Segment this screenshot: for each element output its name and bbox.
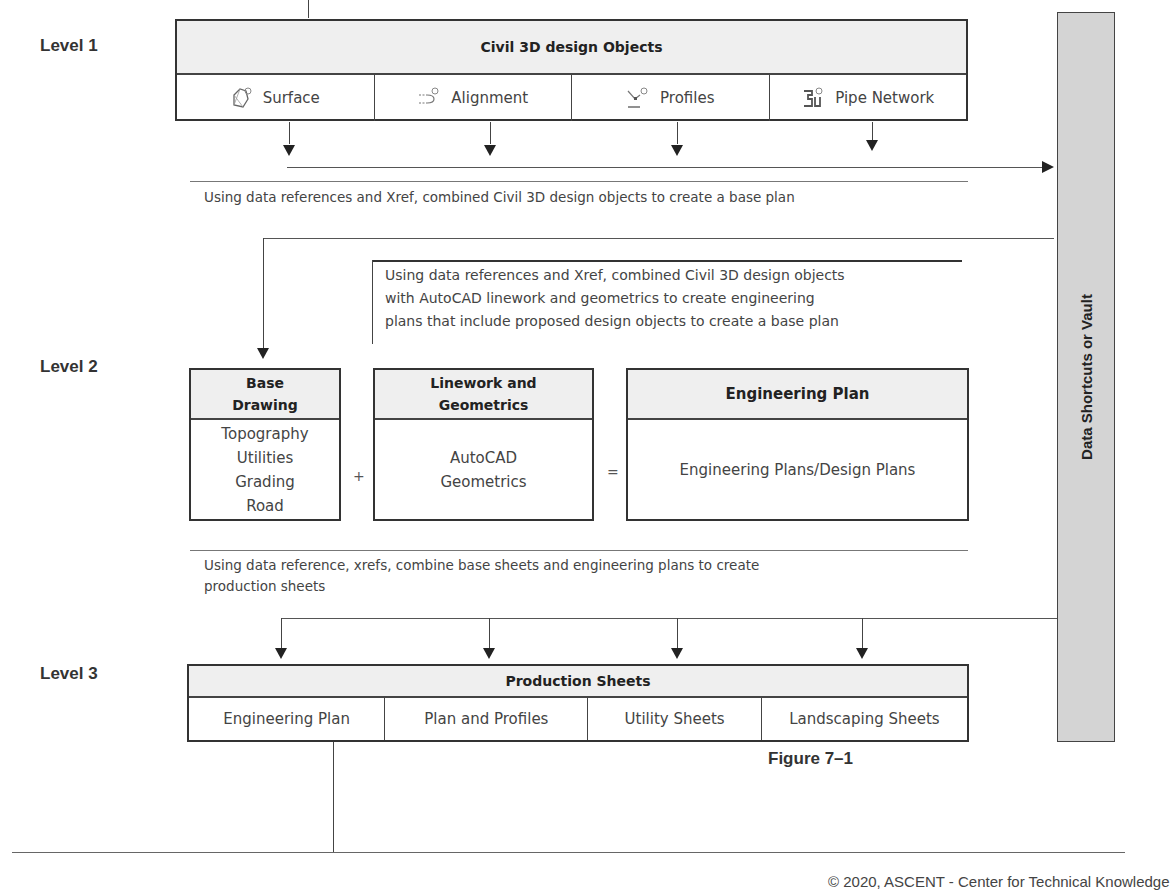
- linework-body: AutoCAD Geometrics: [375, 420, 592, 519]
- level-1-label: Level 1: [40, 36, 98, 56]
- engineering-plan-title: Engineering Plan: [628, 370, 967, 420]
- pipe-network-connector: [872, 122, 873, 140]
- civil3d-objects-title: Civil 3D design Objects: [177, 21, 966, 75]
- to-base-drawing-line: [263, 238, 264, 348]
- base-drawing-title-line-1: Base: [246, 372, 284, 394]
- linework-body-line-1: AutoCAD: [450, 446, 517, 470]
- engineering-plan-box: Engineering Plan Engineering Plans/Desig…: [626, 368, 969, 521]
- equals-operator: =: [607, 464, 619, 480]
- linework-title-line-1: Linework and: [430, 372, 536, 394]
- surface-connector: [289, 122, 290, 144]
- caption-rule: [190, 550, 968, 551]
- arrow-down-icon: [484, 145, 496, 156]
- level-2-caption-line-2: production sheets: [204, 576, 759, 597]
- base-item-road: Road: [246, 494, 284, 518]
- footer-rule: [12, 852, 1125, 853]
- object-pipe-network-label: Pipe Network: [835, 89, 934, 107]
- intro-line-3: plans that include proposed design objec…: [385, 310, 845, 333]
- linework-body-line-2: Geometrics: [440, 470, 526, 494]
- level-2-caption-line-1: Using data reference, xrefs, combine bas…: [204, 555, 759, 576]
- alignment-connector: [490, 122, 491, 144]
- level-3-label: Level 3: [40, 664, 98, 684]
- object-pipe-network: Pipe Network: [769, 75, 967, 121]
- plus-operator: +: [353, 468, 365, 484]
- arrow-down-icon: [856, 648, 868, 659]
- arrow-down-icon: [257, 348, 269, 359]
- from-vault-line: [263, 238, 1054, 239]
- arrow-down-icon: [866, 140, 878, 151]
- object-surface-label: Surface: [263, 89, 320, 107]
- base-item-grading: Grading: [235, 470, 295, 494]
- alignment-icon: [417, 87, 441, 109]
- level-2-label: Level 2: [40, 357, 98, 377]
- footer-text: © 2020, ASCENT - Center for Technical Kn…: [828, 873, 1170, 890]
- level-2-intro: Using data references and Xref, combined…: [385, 264, 845, 333]
- base-item-utilities: Utilities: [237, 446, 293, 470]
- linework-box: Linework and Geometrics AutoCAD Geometri…: [373, 368, 594, 521]
- intro-line-1: Using data references and Xref, combined…: [385, 264, 845, 287]
- bottom-connector-line: [333, 742, 334, 852]
- profiles-connector: [677, 122, 678, 144]
- to-plan-profiles-sheet: [489, 618, 490, 648]
- production-sheets-title: Production Sheets: [189, 666, 967, 698]
- arrow-down-icon: [275, 648, 287, 659]
- object-alignment-label: Alignment: [451, 89, 528, 107]
- linework-title: Linework and Geometrics: [375, 370, 592, 420]
- profiles-icon: [626, 87, 650, 109]
- figure-caption: Figure 7–1: [768, 749, 853, 769]
- to-production-line: [281, 618, 1071, 619]
- to-vault-line: [287, 167, 1042, 168]
- surface-icon: [231, 87, 253, 109]
- data-shortcuts-vault: Data Shortcuts or Vault: [1057, 12, 1115, 742]
- object-profiles: Profiles: [571, 75, 769, 121]
- to-engineering-plan-sheet: [281, 618, 282, 648]
- top-connector-line: [308, 0, 309, 18]
- caption-rule: [190, 181, 968, 182]
- object-profiles-label: Profiles: [660, 89, 714, 107]
- intro-line-2: with AutoCAD linework and geometrics to …: [385, 287, 845, 310]
- production-sheets-box: Production Sheets Engineering Plan Plan …: [187, 664, 969, 742]
- arrow-right-icon: [1042, 161, 1054, 173]
- pipe-network-icon: [801, 87, 825, 109]
- sheet-utility: Utility Sheets: [587, 698, 760, 740]
- to-utility-sheet: [677, 618, 678, 648]
- intro-rule: [372, 260, 962, 262]
- sheet-engineering-plan: Engineering Plan: [189, 698, 384, 740]
- base-drawing-title-line-2: Drawing: [232, 394, 298, 416]
- base-drawing-box: Base Drawing Topography Utilities Gradin…: [189, 368, 341, 521]
- arrow-down-icon: [671, 648, 683, 659]
- arrow-down-icon: [483, 648, 495, 659]
- linework-title-line-2: Geometrics: [439, 394, 529, 416]
- arrow-down-icon: [671, 145, 683, 156]
- sheet-plan-and-profiles: Plan and Profiles: [384, 698, 587, 740]
- base-item-topography: Topography: [221, 422, 308, 446]
- object-alignment: Alignment: [374, 75, 572, 121]
- base-drawing-items: Topography Utilities Grading Road: [191, 420, 339, 519]
- sheet-landscaping: Landscaping Sheets: [761, 698, 967, 740]
- level-1-caption: Using data references and Xref, combined…: [204, 187, 795, 208]
- to-landscaping-sheet: [862, 618, 863, 648]
- level-2-caption: Using data reference, xrefs, combine bas…: [204, 555, 759, 597]
- object-surface: Surface: [177, 75, 374, 121]
- civil3d-objects-box: Civil 3D design Objects Surface Alignmen…: [175, 19, 968, 121]
- intro-bracket: [372, 260, 373, 344]
- arrow-down-icon: [283, 145, 295, 156]
- engineering-plan-body: Engineering Plans/Design Plans: [628, 420, 967, 519]
- vault-label: Data Shortcuts or Vault: [1078, 294, 1095, 460]
- base-drawing-title: Base Drawing: [191, 370, 339, 420]
